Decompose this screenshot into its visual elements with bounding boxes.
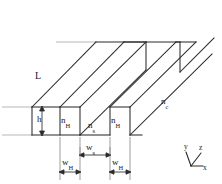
label-gap-width-ws: ws (86, 143, 95, 152)
axis-label-x: x (203, 164, 207, 172)
edge-long-left-top (32, 42, 96, 107)
waveguide-perspective-diagram (0, 0, 222, 184)
label-ridge-index-left-nH: nH (61, 116, 70, 125)
label-ridge-index-right-nH: nH (111, 116, 120, 125)
label-height-h: h (37, 115, 42, 124)
axis-y-line (186, 152, 191, 166)
edge-long-ridge1-right-top (80, 42, 146, 107)
axis-label-y: y (184, 143, 188, 151)
structure-lines (32, 38, 214, 135)
edge-long-ridge1-left-top (60, 42, 124, 107)
label-ridge-width-right-wH: wH (112, 158, 123, 167)
label-slab-index-ns: ns (88, 121, 95, 130)
coordinate-axes-icon (186, 152, 203, 166)
label-ridge-width-left-wH: wH (62, 158, 73, 167)
axis-z-line (191, 153, 201, 166)
axis-label-z: z (199, 144, 202, 152)
edge-long-outer-right (180, 38, 214, 72)
label-cladding-index-nc: nc (161, 97, 168, 106)
label-length-L: L (35, 71, 41, 81)
